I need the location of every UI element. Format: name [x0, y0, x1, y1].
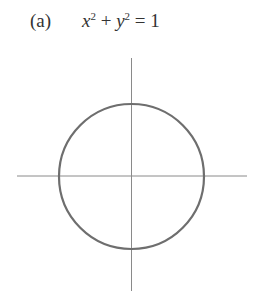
unit-circle-plot — [0, 0, 254, 292]
